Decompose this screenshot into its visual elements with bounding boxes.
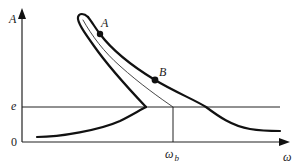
omega-b-label: ωb bbox=[165, 148, 179, 160]
lower-branch-curve bbox=[37, 107, 146, 137]
point-b-label: B bbox=[159, 66, 166, 78]
point-b-marker bbox=[152, 77, 159, 84]
omega-b-main: ω bbox=[165, 147, 173, 161]
point-a-marker bbox=[97, 31, 103, 37]
point-a-label: A bbox=[101, 17, 108, 29]
frequency-response-diagram: A ω 0 e ωb A B bbox=[0, 0, 302, 164]
x-axis-arrow-icon bbox=[279, 138, 290, 146]
diagram-canvas bbox=[0, 0, 302, 164]
e-level-label: e bbox=[11, 100, 16, 112]
omega-b-subscript: b bbox=[174, 153, 179, 163]
middle-thin-curve bbox=[83, 20, 173, 107]
y-axis-arrow-icon bbox=[18, 8, 26, 19]
origin-label: 0 bbox=[11, 136, 17, 148]
x-axis-label: ω bbox=[283, 151, 291, 163]
y-axis-label: A bbox=[9, 13, 16, 25]
